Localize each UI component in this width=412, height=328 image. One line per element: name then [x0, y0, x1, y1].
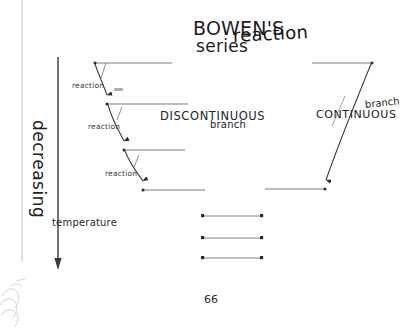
ink-smudge-mark — [114, 88, 123, 91]
reaction-leader-1 — [101, 63, 106, 78]
discontinuous-reaction-arrow-1 — [95, 64, 107, 95]
reaction-leader-2 — [117, 107, 122, 120]
reaction-label-2: reaction — [88, 123, 120, 131]
scan-artifact-hand — [0, 279, 25, 327]
page-number: 66 — [204, 294, 218, 305]
bottom-tie-lines — [201, 214, 263, 259]
continuous-node-bottom — [324, 188, 327, 191]
reaction-label-1: reaction — [72, 82, 104, 90]
reaction-leader-3 — [134, 155, 139, 167]
axis-label-decreasing: decreasing — [30, 120, 47, 218]
page-title-overlay: reaction — [233, 23, 309, 45]
reaction-label-3: reaction — [105, 170, 137, 178]
temperature-axis-arrowhead — [54, 258, 61, 270]
discontinuous-node-4 — [142, 189, 145, 192]
axis-label-temperature: temperature — [52, 218, 117, 228]
continuous-reaction-arrow — [326, 64, 371, 180]
discontinuous-branch-sublabel: branch — [210, 120, 246, 130]
continuous-branch-label: CONTINUOUS — [316, 109, 397, 120]
